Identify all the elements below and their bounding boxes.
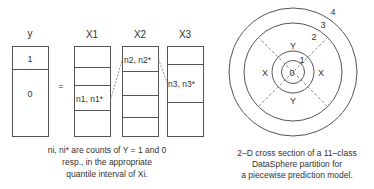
figure-canvas: y X1 X2 X3 1 0 = n1, n1* n2, n2* n3, n3*…: [0, 0, 374, 189]
right-caption-line-2: DataSphere partition for: [252, 159, 342, 169]
region-label-right: X: [318, 68, 324, 78]
left-caption-line-3: quantile interval of Xi.: [66, 169, 147, 179]
y-header: y: [28, 28, 33, 39]
x1-header: X1: [86, 29, 99, 40]
region-label-top: Y: [290, 41, 296, 51]
region-label-left: X: [262, 68, 268, 78]
x1-count-label: n1, n1*: [76, 94, 104, 104]
ring-label-2: 2: [311, 32, 316, 42]
left-caption-line-1: ni, ni* are counts of Y = 1 and 0: [48, 145, 167, 155]
x2-count-label: n2, n2*: [124, 55, 152, 65]
ring-label-1: 1: [299, 55, 304, 65]
right-caption-line-1: 2–D cross section of a 11–class: [237, 148, 356, 158]
ring-label-0: 0: [289, 68, 294, 78]
x3-column-box: [168, 47, 204, 137]
right-caption-line-3: a piecewise prediction model.: [241, 170, 353, 180]
x2-header: X2: [134, 29, 147, 40]
y-cell-1: 1: [27, 54, 32, 64]
connector-x2-x3: [159, 59, 168, 84]
ring-label-3: 3: [320, 20, 325, 30]
x3-count-label: n3, n3*: [168, 79, 196, 89]
x3-header: X3: [179, 29, 192, 40]
x1-column-box: [75, 47, 111, 137]
left-caption-line-2: resp., in the appropriate: [62, 157, 152, 167]
ring-label-4: 4: [330, 7, 335, 17]
equals-sign: =: [58, 81, 63, 91]
region-label-bottom: Y: [290, 96, 296, 106]
y-cell-0: 0: [27, 89, 32, 99]
connector-x1-x2-top: [111, 59, 123, 100]
